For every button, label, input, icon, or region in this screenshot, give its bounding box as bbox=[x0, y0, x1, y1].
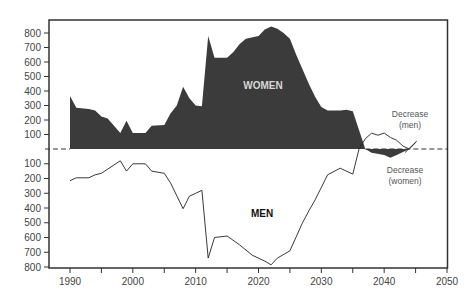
women-decrease-area bbox=[365, 149, 409, 158]
women-area bbox=[70, 27, 365, 150]
men-label: MEN bbox=[251, 208, 273, 219]
women-decrease-path bbox=[365, 149, 409, 158]
y-tick-label: 400 bbox=[24, 203, 41, 214]
decrease-women-label-line1: Decrease bbox=[387, 165, 424, 175]
x-axis: 1990200020102020203020402050 bbox=[59, 268, 459, 287]
population-change-chart: 1002003004005006007008001002003004005006… bbox=[0, 0, 475, 302]
x-tick-label: 2030 bbox=[310, 276, 333, 287]
y-tick-label: 700 bbox=[24, 42, 41, 53]
men-line bbox=[70, 149, 359, 265]
women-area-path bbox=[70, 27, 365, 150]
y-tick-label: 300 bbox=[24, 100, 41, 111]
y-tick-label: 200 bbox=[24, 115, 41, 126]
y-tick-label: 100 bbox=[24, 129, 41, 140]
x-tick-label: 2000 bbox=[122, 276, 145, 287]
x-tick-label: 2050 bbox=[436, 276, 459, 287]
y-tick-label: 600 bbox=[24, 232, 41, 243]
x-tick-label: 2020 bbox=[247, 276, 270, 287]
y-axis: 1002003004005006007008001002003004005006… bbox=[24, 28, 49, 273]
men-decrease-cross bbox=[405, 141, 417, 153]
y-tick-label: 200 bbox=[24, 173, 41, 184]
y-tick-label: 800 bbox=[24, 28, 41, 39]
men-line-path bbox=[70, 149, 359, 265]
x-tick-label: 2010 bbox=[185, 276, 208, 287]
men-decrease-line-path bbox=[359, 133, 416, 149]
y-tick-label: 500 bbox=[24, 217, 41, 228]
y-tick-label: 700 bbox=[24, 247, 41, 258]
decrease-men-label-line2: (men) bbox=[399, 120, 421, 130]
decrease-women-label-line2: (women) bbox=[388, 176, 421, 186]
y-tick-label: 500 bbox=[24, 71, 41, 82]
decrease-men-label-line1: Decrease bbox=[392, 109, 429, 119]
women-label: WOMEN bbox=[243, 80, 282, 91]
y-tick-label: 800 bbox=[24, 262, 41, 273]
y-tick-label: 100 bbox=[24, 158, 41, 169]
y-tick-label: 600 bbox=[24, 57, 41, 68]
x-tick-label: 2040 bbox=[373, 276, 396, 287]
x-tick-label: 1990 bbox=[59, 276, 82, 287]
y-tick-label: 300 bbox=[24, 188, 41, 199]
y-tick-label: 400 bbox=[24, 86, 41, 97]
